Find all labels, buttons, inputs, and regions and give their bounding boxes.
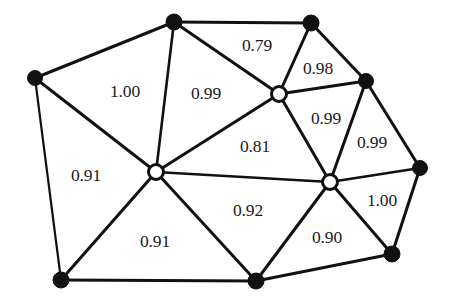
face-label-0.99-far-right: 0.99 [357,134,387,152]
face-label-1.00-upper-left: 1.00 [110,83,140,101]
edge-n5-n8 [61,172,156,280]
node-far-right [413,161,428,176]
edge-n4-n7 [366,81,420,168]
edge-n6-n7 [330,168,420,182]
face-label-0.91-bottom: 0.91 [140,233,170,251]
node-center-hollow [149,165,164,180]
face-label-0.79: 0.79 [242,37,272,55]
graph-figure: 1.000.990.790.980.990.990.810.910.921.00… [0,0,452,302]
edge-n7-n10 [392,168,420,254]
face-label-0.99-right-mid: 0.99 [311,110,341,128]
edge-n5-n6 [156,172,330,182]
face-label-0.98: 0.98 [303,60,333,78]
node-top-right [303,15,319,31]
edge-n0-n1 [35,22,174,78]
node-upper-hollow [272,87,287,102]
face-label-0.92: 0.92 [233,202,263,220]
node-bottom-left [53,272,69,288]
edge-n3-n6 [279,94,330,182]
node-right-hollow [323,175,338,190]
edge-n9-n10 [256,254,392,281]
edge-n1-n2 [174,22,311,23]
node-bottom-center [248,273,264,289]
node-right-upper [359,74,374,89]
face-label-0.91-left: 0.91 [71,167,101,185]
edge-n1-n5 [156,22,174,172]
face-label-0.90: 0.90 [312,229,342,247]
face-label-0.81: 0.81 [240,138,270,156]
node-bottom-right [384,246,400,262]
node-top-left-outer [28,71,43,86]
edge-n3-n4 [279,81,366,94]
edge-n0-n8 [35,78,61,280]
node-top-center [166,14,182,30]
edge-n5-n9 [156,172,256,281]
edge-n1-n3 [174,22,279,94]
edge-n3-n5 [156,94,279,172]
face-label-1.00-right: 1.00 [367,192,397,210]
face-label-0.99-upper: 0.99 [191,85,221,103]
edge-n8-n9 [61,280,256,281]
